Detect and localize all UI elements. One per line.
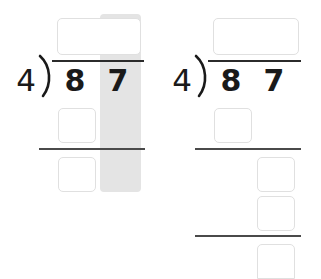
dividend-digit-ones: 7 — [259, 66, 289, 96]
quotient-box[interactable] — [57, 18, 141, 55]
subtraction-rule-2 — [195, 235, 301, 237]
subtraction-rule-1 — [39, 148, 145, 150]
brought-down-box[interactable] — [257, 196, 295, 231]
divisor-digit: 4 — [15, 65, 37, 96]
division-vinculum — [52, 60, 144, 62]
quotient-box[interactable] — [213, 18, 299, 55]
difference-box[interactable] — [58, 157, 96, 192]
remainder-box[interactable] — [257, 244, 295, 279]
dividend-digit-tens: 8 — [60, 66, 90, 96]
divisor-digit: 4 — [171, 65, 193, 96]
partial-product-box[interactable] — [58, 108, 96, 143]
dividend-digit-ones: 7 — [103, 66, 133, 96]
partial-product-box[interactable] — [214, 108, 252, 143]
difference-box[interactable] — [257, 157, 295, 192]
division-problem-right: 4 8 7 — [160, 0, 321, 273]
division-vinculum — [208, 60, 301, 62]
division-problem-left: 4 8 7 — [0, 0, 160, 273]
subtraction-rule-1 — [195, 148, 301, 150]
dividend-digit-tens: 8 — [216, 66, 246, 96]
